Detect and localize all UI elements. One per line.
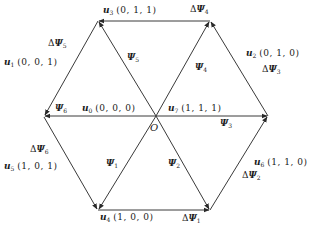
label-delta-psi6: ΔΨ6	[30, 144, 49, 157]
hexagon-vector-diagram	[0, 0, 319, 237]
label-delta-psi5: ΔΨ5	[48, 38, 67, 51]
spoke-top-left	[99, 22, 156, 116]
label-psi6: Ψ6	[55, 103, 67, 116]
label-psi5: Ψ5	[127, 52, 139, 65]
spoke-bottom-right	[156, 116, 209, 209]
label-u4: u4 (1, 0, 0)	[100, 212, 153, 225]
label-delta-psi4: ΔΨ4	[190, 4, 209, 17]
label-u0: u0 (0, 0, 0)	[82, 103, 135, 116]
label-u3: u3 (0, 1, 1)	[103, 5, 156, 18]
label-u6: u6 (1, 1, 0)	[254, 157, 307, 170]
label-delta-psi3: ΔΨ3	[262, 64, 281, 77]
label-u7: u7 (1, 1, 1)	[168, 103, 221, 116]
label-delta-psi2: ΔΨ2	[242, 170, 261, 183]
label-psi1: Ψ1	[106, 158, 118, 171]
label-psi3: Ψ3	[220, 118, 232, 131]
edge-top-right	[211, 22, 268, 116]
origin-label: O	[150, 123, 158, 133]
label-psi2: Ψ2	[168, 158, 180, 171]
label-u1: u1 (0, 0, 1)	[4, 57, 57, 70]
label-u2: u2 (0, 1, 0)	[246, 48, 299, 61]
label-delta-psi1: ΔΨ1	[182, 213, 201, 226]
label-psi4: Ψ4	[195, 62, 207, 75]
label-u5: u5 (1, 0, 1)	[4, 161, 57, 174]
